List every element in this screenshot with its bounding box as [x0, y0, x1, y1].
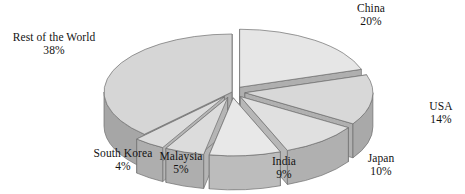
- slice-label-name: Japan: [352, 152, 410, 165]
- slice-label-percent: 38%: [2, 44, 106, 57]
- slice-label-rest-of-the-world: Rest of the World 38%: [2, 31, 106, 57]
- slice-label-name: China: [330, 2, 412, 15]
- slice-label-usa: USA 14%: [420, 100, 462, 126]
- slice-label-percent: 20%: [330, 15, 412, 28]
- pie-chart-figure: Rest of the World 38% China 20% USA 14% …: [0, 0, 465, 194]
- slice-label-name: Rest of the World: [2, 31, 106, 44]
- slice-label-name: India: [258, 155, 310, 168]
- slice-label-name: USA: [420, 100, 462, 113]
- slice-label-percent: 10%: [352, 165, 410, 178]
- slice-label-percent: 4%: [84, 160, 162, 173]
- slice-label-name: South Korea: [84, 147, 162, 160]
- slice-label-india: India 9%: [258, 155, 310, 181]
- slice-label-japan: Japan 10%: [352, 152, 410, 178]
- slice-label-percent: 14%: [420, 113, 462, 126]
- slice-label-south-korea: South Korea 4%: [84, 147, 162, 173]
- slice-label-percent: 9%: [258, 168, 310, 181]
- slice-label-china: China 20%: [330, 2, 412, 28]
